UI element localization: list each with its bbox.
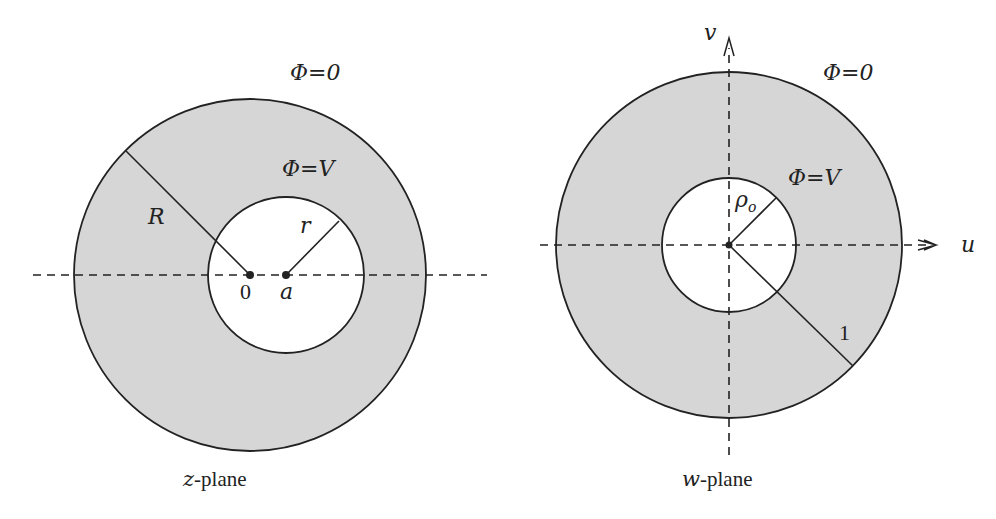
w-v-axis-arrow-icon <box>724 38 734 56</box>
z-origin-label: 0 <box>240 279 251 304</box>
w-plane-diagram: v u Φ=0 Φ=V ρo 1 w-plane <box>540 20 975 491</box>
z-outer-potential-label: Φ=0 <box>290 60 340 85</box>
z-inner-radius-label: r <box>300 213 312 238</box>
z-origin-point <box>246 271 254 279</box>
w-v-axis-label: v <box>704 20 717 45</box>
w-outer-potential-label: Φ=0 <box>823 60 873 85</box>
w-inner-potential-label: Φ=V <box>788 165 842 190</box>
z-plane-diagram: Φ=0 Φ=V R r 0 a z-plane <box>33 60 487 491</box>
z-offset-point <box>282 271 290 279</box>
conformal-map-figure: Φ=0 Φ=V R r 0 a z-plane v u Φ=0 Φ=V ρo 1… <box>0 0 996 519</box>
z-inner-potential-label: Φ=V <box>282 156 336 181</box>
w-plane-caption: w-plane <box>682 467 752 491</box>
z-outer-radius-label: R <box>147 204 165 229</box>
w-origin-point <box>726 242 733 249</box>
z-plane-caption: z-plane <box>182 467 247 491</box>
z-offset-label: a <box>280 279 293 304</box>
w-outer-radius-label: 1 <box>839 320 850 345</box>
w-u-axis-label: u <box>961 232 975 257</box>
